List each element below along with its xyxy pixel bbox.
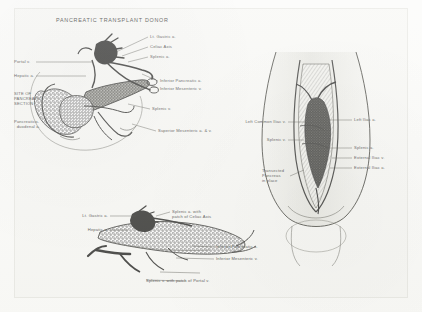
label-splenic-a-pelvis: Splenic a. (354, 145, 374, 150)
label-splenic-a: Splenic a. (150, 54, 170, 59)
label-external-iliac-v: External Iliac v. (354, 155, 385, 160)
label-transected-pancreas-in-place: Transected Pancreas in place (262, 168, 284, 183)
label-lt-gastric-a: Lt. Gastric a. (150, 34, 176, 39)
label-left-iliac-a: Left Iliac a. (354, 117, 376, 122)
panel-donor-organ-art (30, 34, 158, 150)
label-splenic-v: Splenic v. (152, 106, 171, 111)
label-lt-gastric-a-graft: Lt. Gastric a. (70, 213, 108, 218)
label-splenic-v-with-patch-of-portal-v: Splenic v. with patch of Portal v. (146, 278, 210, 283)
label-pancreaticoduodenal-a: Pancreatico- duodenal a. (14, 119, 40, 129)
figure-root: PANCREATIC TRANSPLANT DONOR Lt. Gastric … (0, 0, 422, 312)
label-inferior-pancreatic-a-graft: Inferior Pancreatic a. (216, 244, 258, 249)
label-celiac-axis: Celiac Axis (150, 44, 172, 49)
label-hepatic-a-graft: Hepatic a. (70, 227, 108, 232)
label-inferior-mesenteric-v: Inferior Mesenteric v. (160, 86, 202, 91)
label-splenic-a-with-patch-of-celiac-axis: Splenic a. with patch of Celiac Axis (172, 209, 211, 219)
label-inferior-mesenteric-v-graft: Inferior Mesenteric v. (216, 256, 258, 261)
label-site-of-pancreatic-section: SITE OF PANCREATIC SECTION (14, 91, 42, 106)
label-hepatic-a: Hepatic a. (14, 73, 34, 78)
label-inferior-pancreatic-a: Inferior Pancreatic a. (160, 78, 202, 83)
label-splenic-v-pelvis: Splenic v. (242, 137, 286, 142)
label-left-common-iliac-v: Left Common Iliac v. (228, 119, 286, 124)
label-superior-mesenteric-a-and-v: Superior Mesenteric a. & v. (158, 128, 212, 133)
label-external-iliac-a: External Iliac a. (354, 165, 385, 170)
figure-title: PANCREATIC TRANSPLANT DONOR (56, 17, 169, 23)
label-portal-v: Portal v. (14, 59, 30, 64)
